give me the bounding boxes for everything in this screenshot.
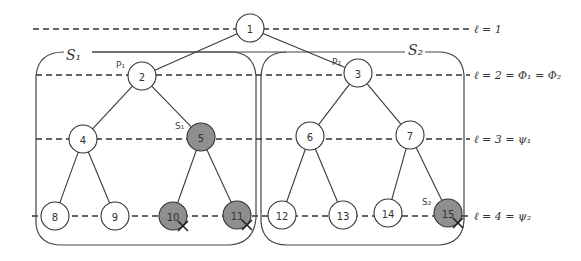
tree-node-3: 3P₂ bbox=[332, 57, 372, 87]
tree-node-11: 11 bbox=[223, 201, 252, 230]
edge-2-4 bbox=[93, 86, 133, 129]
tree-node-5: 5S₁ bbox=[175, 121, 215, 151]
node-label: 1 bbox=[247, 24, 253, 35]
tree-node-7: 7 bbox=[396, 121, 424, 149]
edge-7-14 bbox=[392, 148, 406, 199]
edge-6-12 bbox=[287, 149, 306, 202]
tree-node-14: 14 bbox=[374, 199, 402, 227]
node-label: 9 bbox=[112, 212, 118, 223]
node-label: 12 bbox=[276, 211, 289, 222]
edge-6-13 bbox=[315, 149, 337, 202]
node-label: 2 bbox=[139, 72, 145, 83]
node-label: 4 bbox=[80, 135, 86, 146]
node-label: 8 bbox=[52, 212, 58, 223]
tree-diagram: S₁ S₂ 12P₁3P₂45S₁6789101112131415S₂ ℓ = … bbox=[0, 0, 581, 261]
node-label: 5 bbox=[198, 133, 204, 144]
set-label-s1: S₁ bbox=[66, 47, 81, 63]
edge-3-6 bbox=[318, 84, 349, 125]
edge-7-15 bbox=[416, 148, 442, 201]
set-label-s2: S₂ bbox=[408, 42, 424, 58]
tree-node-15: 15S₂ bbox=[422, 197, 463, 228]
edge-2-5 bbox=[152, 86, 192, 127]
tree-node-10: 10 bbox=[159, 202, 188, 231]
node-label: 11 bbox=[231, 211, 244, 222]
level-label-4: ℓ = 4 = ψ₂ bbox=[474, 210, 531, 223]
tree-node-13: 13 bbox=[329, 201, 357, 229]
edge-4-9 bbox=[88, 152, 109, 203]
node-label: 7 bbox=[407, 131, 413, 142]
edge-4-8 bbox=[60, 152, 78, 203]
tree-node-8: 8 bbox=[41, 202, 69, 230]
node-label: 10 bbox=[167, 212, 180, 223]
node-label: 3 bbox=[355, 69, 361, 80]
node-tag-label: S₁ bbox=[175, 121, 185, 131]
tree-node-4: 4 bbox=[69, 125, 97, 153]
tree-node-1: 1 bbox=[236, 14, 264, 42]
node-label: 6 bbox=[307, 132, 313, 143]
node-tag-label: P₂ bbox=[332, 57, 341, 67]
level-labels: ℓ = 1 ℓ = 2 = Φ₁ = Φ₂ ℓ = 3 = ψ₁ ℓ = 4 =… bbox=[474, 23, 561, 223]
tree-node-9: 9 bbox=[101, 202, 129, 230]
edge-5-10 bbox=[178, 150, 197, 203]
edges bbox=[60, 33, 442, 203]
level-label-2: ℓ = 2 = Φ₁ = Φ₂ bbox=[474, 69, 561, 82]
node-label: 13 bbox=[337, 211, 350, 222]
level-label-3: ℓ = 3 = ψ₁ bbox=[474, 133, 531, 146]
node-label: 15 bbox=[442, 209, 455, 220]
tree-node-12: 12 bbox=[268, 201, 296, 229]
node-label: 14 bbox=[382, 209, 395, 220]
node-tag-label: P₁ bbox=[116, 60, 125, 70]
level-label-1: ℓ = 1 bbox=[474, 23, 502, 36]
edge-3-7 bbox=[367, 84, 401, 125]
node-tag-label: S₂ bbox=[422, 197, 432, 207]
tree-node-6: 6 bbox=[296, 122, 324, 150]
edge-5-11 bbox=[207, 150, 231, 203]
